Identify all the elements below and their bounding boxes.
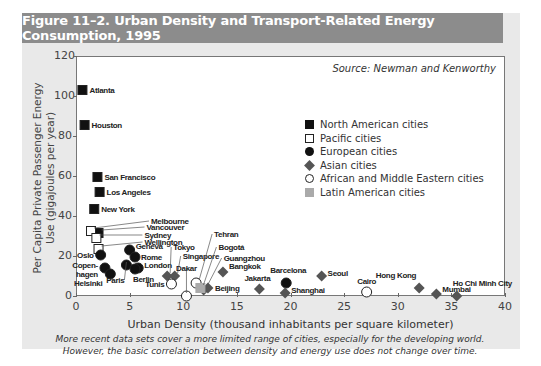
point-label: Copen- [72, 261, 98, 270]
point-label: Seoul [328, 269, 348, 278]
point-label: Bangkok [229, 262, 262, 271]
point-label: Hong Kong [376, 271, 417, 280]
point-label: Houston [92, 121, 123, 130]
point-label: Shanghai [291, 286, 325, 295]
data-point-oslo [96, 250, 106, 260]
point-label: Helsinki [74, 279, 102, 288]
data-point-los-angeles [95, 188, 104, 197]
caption-line-2: However, the basic correlation between d… [40, 345, 500, 357]
point-label: Los Angeles [107, 188, 152, 197]
data-point-hong-kong [414, 283, 425, 294]
point-label: Bogotá [218, 243, 245, 252]
data-point-atlanta [78, 86, 87, 95]
point-label: Geneva [136, 242, 164, 251]
data-point-barcelona [281, 278, 291, 288]
data-point-mumbai [431, 289, 442, 300]
data-point-shanghai [280, 288, 291, 299]
point-label: Melbourne [151, 217, 190, 226]
point-label: New York [101, 205, 135, 214]
data-point-new-york [90, 205, 99, 214]
data-point-seoul [316, 271, 327, 282]
leader-line [102, 227, 145, 230]
data-point-cairo [362, 287, 372, 297]
data-point-bangkok [217, 267, 228, 278]
point-label: Ho Chi Minh City [453, 279, 513, 288]
point-label: Beijing [215, 284, 240, 293]
point-label: London [144, 261, 172, 270]
caption-line-1: More recent data sets cover a more limit… [40, 333, 500, 345]
data-point-houston [80, 121, 89, 130]
point-label: Jakarta [244, 274, 271, 283]
point-label: Oslo [77, 251, 94, 260]
point-label: hagen [76, 270, 98, 279]
data-point-jakarta [254, 284, 265, 295]
point-label: Barcelona [270, 266, 307, 275]
point-label: Dakar [176, 264, 197, 273]
point-label: Paris [106, 276, 125, 285]
data-point-san-francisco [93, 173, 102, 182]
point-label: San Francisco [104, 173, 155, 182]
point-label: Tokyo [173, 243, 195, 252]
data-point-berlin [130, 264, 140, 274]
data-point-rome [130, 252, 140, 262]
point-label: Cairo [357, 277, 376, 286]
point-label: Atlanta [89, 86, 115, 95]
figure-caption: More recent data sets cover a more limit… [40, 333, 500, 357]
scatter-points: AtlantaHoustonSan FranciscoLos AngelesNe… [0, 0, 541, 366]
data-point-tunis [166, 279, 176, 289]
point-label: Tunis [145, 280, 165, 289]
point-label: Tehran [214, 230, 239, 239]
